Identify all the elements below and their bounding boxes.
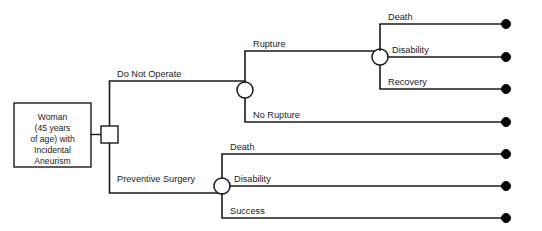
terminal-node-rupture-death [502,20,511,29]
terminal-node-rupture-recovery [502,85,511,94]
chance-node-surgery-results [214,178,230,194]
tree-canvas: Woman (45 years of age) with Incidental … [0,0,542,231]
label-rupture-disability: Disability [392,45,429,55]
root-label-line-4: Incidental [34,145,71,155]
label-rupture: Rupture [253,39,286,49]
label-surgery-disability: Disability [234,174,271,184]
root-label-line-1: Woman [38,112,68,122]
label-rupture-recovery: Recovery [388,77,427,87]
root-label-line-5: Aneurism [34,156,70,166]
chance-node-rupture-outcome [237,82,253,98]
terminal-node-surgery-death [502,150,511,159]
label-do-not-operate: Do Not Operate [117,69,181,79]
terminal-node-surgery-success [502,214,511,223]
label-surgery-death: Death [230,142,255,152]
terminal-node-rupture-disability [502,53,511,62]
decision-tree-diagram: Woman (45 years of age) with Incidental … [0,0,542,231]
label-rupture-death: Death [388,12,413,22]
label-surgery-success: Success [230,206,265,216]
label-preventive-surgery: Preventive Surgery [117,174,196,184]
terminal-node-surgery-disability [502,182,511,191]
decision-square-node [101,126,118,143]
label-no-rupture: No Rupture [253,110,300,120]
root-label-line-3: of age) with [30,134,75,144]
terminal-node-no-rupture [502,118,511,127]
root-label-line-2: (45 years [35,123,71,133]
chance-node-rupture-results [372,49,388,65]
